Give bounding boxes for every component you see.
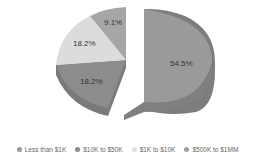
- legend-item-500k-to-1mm[interactable]: $500K to $1MM: [184, 143, 238, 155]
- legend-label: Less than $1K: [25, 146, 67, 153]
- legend-label: $10K to $50K: [83, 146, 122, 153]
- label-slice-1k-to-10k: 18.2%: [73, 39, 96, 48]
- legend-dot-icon: [184, 147, 189, 152]
- legend-item-less-than-1k[interactable]: Less than $1K: [17, 143, 67, 155]
- legend-label: $1K to $10K: [140, 146, 176, 153]
- legend-label: $500K to $1MM: [192, 146, 238, 153]
- legend-item-1k-to-10k[interactable]: $1K to $10K: [132, 143, 176, 155]
- legend-dot-icon: [75, 147, 80, 152]
- chart-legend: Less than $1K $10K to $50K $1K to $10K $…: [0, 143, 255, 155]
- legend-item-10k-to-50k[interactable]: $10K to $50K: [75, 143, 122, 155]
- legend-dot-icon: [17, 147, 22, 152]
- label-slice-10k-to-50k: 18.2%: [80, 77, 103, 86]
- label-slice-less-than-1k: 54.5%: [170, 59, 193, 68]
- legend-dot-icon: [132, 147, 137, 152]
- pie-chart: 54.5% 18.2% 18.2% 9.1%: [0, 0, 255, 135]
- label-slice-500k-to-1mm: 9.1%: [104, 18, 122, 27]
- slice-10k-to-50k[interactable]: [56, 60, 126, 116]
